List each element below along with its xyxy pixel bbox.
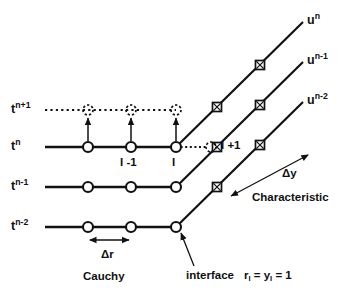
node-label-i-plus-1: I +1 [221, 140, 241, 152]
square-cross-marker [213, 103, 222, 112]
time-level-label-tnp1: tn+1 [11, 103, 31, 116]
characteristic-label-un: un [307, 14, 320, 27]
open-circle-node [83, 182, 93, 192]
interface-value-label: rI = yI = 1 [244, 270, 292, 282]
sup-n-plus-1: n+1 [15, 100, 30, 110]
time-level-label-tnm1: tn-1 [11, 180, 28, 193]
equals-one: = 1 [272, 269, 292, 281]
square-cross-marker [256, 141, 265, 150]
open-circle-node [83, 142, 93, 152]
characteristic-label-unm1: un-1 [307, 54, 328, 67]
open-circle-node [171, 222, 181, 232]
update-arrows [88, 118, 176, 141]
interface-pointer-arrow [181, 233, 194, 266]
square-cross-marker [256, 101, 265, 110]
time-level-label-tn: tn [11, 140, 21, 153]
cauchy-label: Cauchy [83, 271, 125, 283]
equals-1: = [251, 269, 264, 281]
sup-n-minus-2: n-2 [315, 91, 328, 101]
interface-label: interface [186, 270, 234, 282]
characteristic-label-unm2: un-2 [307, 94, 328, 107]
sup-n-minus-1: n-1 [315, 51, 328, 61]
open-circle-node [171, 182, 181, 192]
delta-r-label: Δr [101, 249, 114, 261]
node-label-i: I [172, 157, 175, 169]
time-level-label-tnm2: tn-2 [11, 220, 28, 233]
square-cross-marker [256, 61, 265, 70]
open-circle-node [83, 222, 93, 232]
square-cross-marker [213, 183, 222, 192]
characteristic-line-un [176, 22, 303, 147]
characteristic-line-unm2 [176, 102, 303, 227]
sup-n-minus-2: n-2 [15, 217, 28, 227]
node-label-i-minus-1: I -1 [120, 157, 137, 169]
sup-n: n [15, 137, 20, 147]
sup-n: n [315, 11, 320, 21]
open-circle-node [171, 142, 181, 152]
diagram-canvas [0, 0, 353, 297]
delta-y-label: Δy [282, 168, 297, 180]
open-circle-node [126, 182, 136, 192]
open-circle-node [126, 222, 136, 232]
characteristic-label: Characteristic [252, 192, 329, 204]
time-level-lines [45, 110, 176, 227]
stencil-diagram-figure: tn+1 tn tn-1 tn-2 un un-1 un-2 I -1 I I … [0, 0, 353, 297]
sup-n-minus-1: n-1 [15, 177, 28, 187]
open-circle-node [126, 142, 136, 152]
